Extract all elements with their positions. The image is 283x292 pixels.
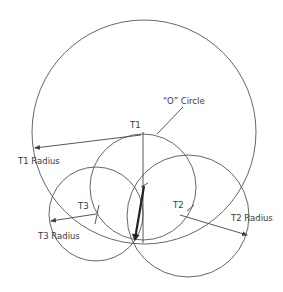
t3-label: T3 bbox=[77, 201, 89, 211]
t2-label: T2 bbox=[172, 200, 184, 210]
o-circle bbox=[32, 20, 256, 244]
t2-radius-label: T2 Radius bbox=[230, 213, 273, 223]
t1-radius-arrow bbox=[35, 135, 141, 148]
t1-label: T1 bbox=[129, 120, 141, 130]
t1-radius-label: T1 Radius bbox=[17, 156, 60, 166]
t3-radius-label: T3 Radius bbox=[37, 231, 80, 241]
circle-construction-diagram: “O” Circle T1 T1 Radius T3 T3 Radius T2 … bbox=[0, 0, 283, 292]
t3-radius-arrow bbox=[51, 214, 96, 221]
o-circle-label: “O” Circle bbox=[163, 96, 205, 106]
o-circle-leader bbox=[157, 107, 183, 134]
